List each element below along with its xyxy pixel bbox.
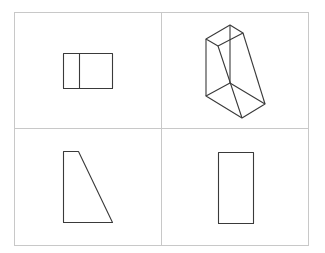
iso-top-face [206, 25, 243, 46]
three-view-diagram [0, 0, 325, 253]
side-view-outline [64, 152, 113, 223]
front-view-outline [64, 54, 113, 89]
side-view [64, 152, 113, 223]
front-view [64, 54, 113, 89]
top-view [219, 153, 254, 224]
panel-grid [15, 13, 309, 246]
top-view-outline [219, 153, 254, 224]
isometric-view [206, 25, 265, 118]
iso-bottom-face [206, 83, 265, 118]
